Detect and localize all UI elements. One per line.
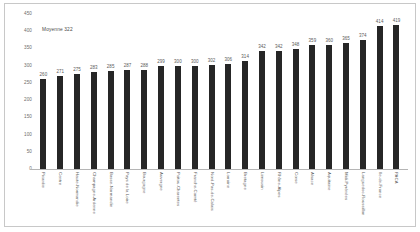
bar-value-label: 414 (376, 20, 384, 25)
bar-column: 365 (338, 14, 355, 169)
bar-column: 419 (388, 14, 405, 169)
x-axis-label-column: Haute-Normandie (69, 171, 86, 227)
plot-area: 2602712752832852872882993003003023063143… (30, 14, 408, 169)
chart-container: 050100150200250300350400450 Moyenne 322 … (0, 0, 420, 232)
bar-value-label: 314 (241, 55, 249, 60)
bar-column: 300 (186, 14, 203, 169)
bar[interactable] (158, 66, 164, 169)
y-axis-tick: 200 (8, 98, 32, 103)
bar-value-label: 359 (309, 39, 317, 44)
x-axis-label-column: Ile-de-France (371, 171, 388, 227)
bar-column: 306 (220, 14, 237, 169)
bar[interactable] (393, 25, 399, 169)
bar-column: 287 (119, 14, 136, 169)
x-axis-label-column: Pays de la Loire (119, 171, 136, 227)
bar-column: 283 (85, 14, 102, 169)
x-axis-tick-label: Rhône-Alpes (277, 172, 281, 197)
bar[interactable] (40, 79, 46, 169)
bar-column: 302 (203, 14, 220, 169)
bar[interactable] (57, 76, 63, 169)
y-axis-tick: 450 (8, 12, 32, 17)
x-axis-label-column: Rhône-Alpes (270, 171, 287, 227)
bar[interactable] (192, 66, 198, 169)
bar[interactable] (360, 40, 366, 169)
bar-column: 360 (321, 14, 338, 169)
x-axis-label-column: Auvergne (153, 171, 170, 227)
bar-column: 260 (35, 14, 52, 169)
x-axis-label-column: Centre (52, 171, 69, 227)
bar[interactable] (293, 49, 299, 169)
x-axis-label-column: Midi-Pyrénées (338, 171, 355, 227)
bar-column: 300 (170, 14, 187, 169)
x-axis-tick-label: PACA (394, 172, 398, 184)
bar[interactable] (242, 61, 248, 169)
x-axis-tick-label: Haute-Normandie (75, 172, 79, 207)
bar[interactable] (74, 74, 80, 169)
bar[interactable] (259, 51, 265, 169)
bar-value-label: 285 (107, 65, 115, 70)
y-axis-tick: 100 (8, 132, 32, 137)
x-axis-tick-label: Poitou-Charentes (176, 172, 180, 206)
bar[interactable] (309, 45, 315, 169)
bar[interactable] (343, 43, 349, 169)
x-axis-label-column: Languedoc-Roussillon (354, 171, 371, 227)
x-axis-tick-label: Lorraine (226, 172, 230, 188)
bar-value-label: 271 (56, 70, 64, 75)
bar[interactable] (326, 45, 332, 169)
x-axis-tick-label: Picardie (41, 172, 45, 188)
bar-value-label: 306 (225, 58, 233, 63)
bar[interactable] (108, 71, 114, 169)
bar-value-label: 275 (73, 68, 81, 73)
bar-column: 275 (69, 14, 86, 169)
y-axis-tick: 350 (8, 46, 32, 51)
bar[interactable] (91, 72, 97, 169)
x-axis-tick-label: Aquitaine (327, 172, 331, 190)
bar-column: 314 (237, 14, 254, 169)
x-axis-tick-label: Auvergne (159, 172, 163, 191)
bar-column: 288 (136, 14, 153, 169)
y-axis-tick: 250 (8, 81, 32, 86)
y-axis-tick: 300 (8, 63, 32, 68)
bar-value-label: 365 (342, 37, 350, 42)
x-axis-tick-label: Pays de la Loire (125, 172, 129, 204)
x-axis-labels: PicardieCentreHaute-NormandieChampagne-A… (30, 171, 408, 227)
x-axis-tick-label: Champagne-Ardenne (92, 172, 96, 214)
bar-value-label: 283 (90, 66, 98, 71)
bar-value-label: 300 (191, 60, 199, 65)
x-axis-label-column: Poitou-Charentes (170, 171, 187, 227)
x-axis-label-column: Aquitaine (321, 171, 338, 227)
bar-value-label: 300 (174, 60, 182, 65)
x-axis-label-column: Champagne-Ardenne (85, 171, 102, 227)
x-axis-label-column: PACA (388, 171, 405, 227)
bar-value-label: 288 (140, 64, 148, 69)
bar-value-label: 342 (275, 45, 283, 50)
x-axis-label-column: Bretagne (237, 171, 254, 227)
bar[interactable] (225, 64, 231, 169)
bar-value-label: 419 (393, 19, 401, 24)
bar-column: 271 (52, 14, 69, 169)
bar[interactable] (141, 70, 147, 169)
bar-value-label: 299 (157, 60, 165, 65)
x-axis-label-column: Franche-Comté (186, 171, 203, 227)
bar[interactable] (209, 65, 215, 169)
x-axis-label-column: Limousin (254, 171, 271, 227)
bar-value-label: 374 (359, 34, 367, 39)
x-axis-tick-label: Languedoc-Roussillon (361, 172, 365, 216)
x-axis-label-column: Picardie (35, 171, 52, 227)
bar-column: 348 (287, 14, 304, 169)
x-axis-label-column: Lorraine (220, 171, 237, 227)
bar[interactable] (124, 70, 130, 169)
x-axis-label-column: Nord-Pas-de-Calais (203, 171, 220, 227)
x-axis-tick-label: Alsace (310, 172, 314, 185)
bar[interactable] (377, 26, 383, 169)
x-axis-label-column: Bourgogne (136, 171, 153, 227)
x-axis-tick-label: Limousin (260, 172, 264, 190)
bars-row: 2602712752832852872882993003003023063143… (30, 14, 408, 169)
bar[interactable] (276, 51, 282, 169)
x-axis-tick-label: Bretagne (243, 172, 247, 190)
x-axis-label-column: Alsace (304, 171, 321, 227)
x-axis-tick-label: Basse-Normandie (109, 172, 113, 207)
x-axis-tick-label: Franche-Comté (193, 172, 197, 203)
bar[interactable] (175, 66, 181, 169)
y-axis-tick: 150 (8, 115, 32, 120)
